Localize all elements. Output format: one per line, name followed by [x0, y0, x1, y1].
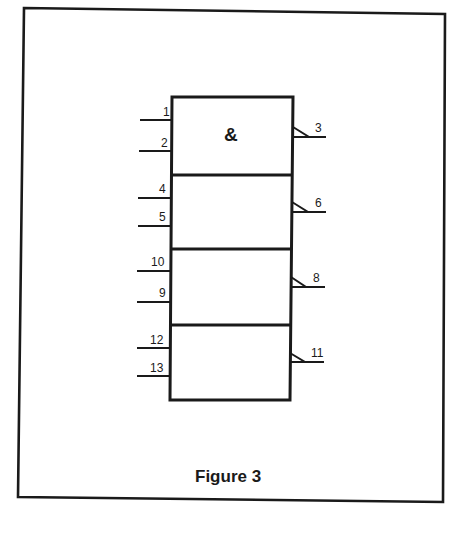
pin-label: 6 [315, 196, 322, 210]
pin-label: 1 [163, 105, 170, 119]
gate-2 [138, 198, 326, 226]
pin-label: 4 [159, 182, 166, 196]
pin-label: 8 [313, 271, 320, 285]
figure-canvas: & 1 2 3 4 5 6 10 9 8 12 13 11 Figure 3 [0, 0, 462, 536]
pin-label: 2 [161, 136, 168, 150]
pin-label: 12 [150, 333, 164, 347]
pin-label: 5 [159, 210, 166, 224]
pin-label: 11 [311, 346, 324, 360]
open-collector-marker-icon [293, 127, 309, 137]
and-gate-symbol: & [224, 124, 238, 145]
figure-caption: Figure 3 [195, 467, 261, 486]
pin-label: 9 [159, 286, 166, 300]
gate-4 [137, 348, 324, 376]
pin-label: 10 [151, 255, 165, 269]
open-collector-marker-icon [291, 277, 306, 287]
open-collector-marker-icon [290, 353, 305, 362]
pin-label: 13 [150, 361, 164, 375]
figure-frame [18, 8, 445, 502]
pin-label: 3 [315, 121, 322, 135]
open-collector-marker-icon [292, 202, 308, 212]
